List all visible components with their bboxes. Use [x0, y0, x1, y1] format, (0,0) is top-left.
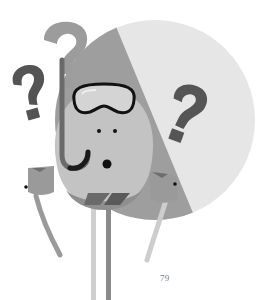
arm-left: [36, 196, 60, 255]
page-number: 79: [160, 273, 169, 283]
mouth: [103, 160, 112, 169]
book-page: 79: [0, 0, 256, 300]
armband-left: [24, 166, 54, 195]
question-mark-left-icon: [10, 63, 48, 121]
legs: [91, 205, 111, 300]
snorkel-character-illustration: [0, 0, 256, 300]
armband-right: [150, 172, 178, 203]
